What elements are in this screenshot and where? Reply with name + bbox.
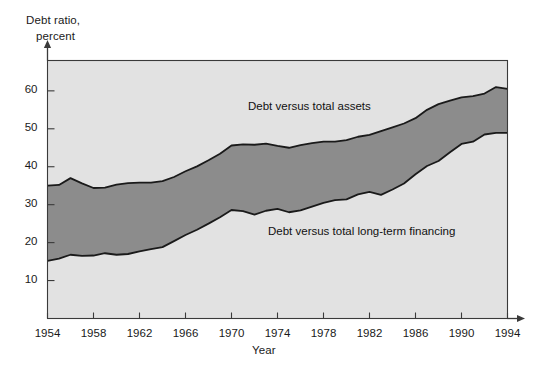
- chart-canvas: [0, 0, 539, 381]
- x-axis-label: Year: [252, 344, 276, 356]
- x-tick-label: 1986: [396, 327, 436, 339]
- x-tick-label: 1970: [212, 327, 252, 339]
- x-tick-label: 1978: [304, 327, 344, 339]
- y-axis-label-line1: Debt ratio,: [26, 14, 80, 26]
- x-tick-label: 1958: [74, 327, 114, 339]
- y-tick-label: 50: [14, 121, 38, 133]
- y-axis-label-line2: percent: [36, 30, 75, 42]
- x-tick-label: 1954: [28, 327, 68, 339]
- y-tick-label: 60: [14, 83, 38, 95]
- chart-figure: Debt ratio, percent Year 102030405060 19…: [0, 0, 539, 381]
- y-tick-label: 30: [14, 197, 38, 209]
- x-tick-label: 1974: [258, 327, 298, 339]
- y-tick-label: 10: [14, 273, 38, 285]
- series-annotation-upper: Debt versus total assets: [248, 100, 371, 112]
- chart-svg: [0, 0, 539, 381]
- x-tick-label: 1966: [166, 327, 206, 339]
- x-tick-label: 1962: [120, 327, 160, 339]
- y-tick-label: 40: [14, 159, 38, 171]
- x-tick-label: 1990: [442, 327, 482, 339]
- x-tick-label: 1994: [488, 327, 528, 339]
- y-tick-label: 20: [14, 235, 38, 247]
- x-axis-arrow: [517, 315, 525, 322]
- series-annotation-lower: Debt versus total long-term financing: [268, 225, 455, 237]
- x-tick-label: 1982: [350, 327, 390, 339]
